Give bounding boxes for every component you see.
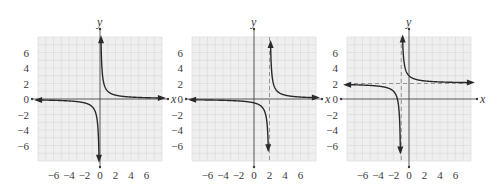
y-axis-end-dot xyxy=(408,166,410,168)
y-tick-label: 6 xyxy=(178,47,184,59)
x-tick-label: 2 xyxy=(422,169,428,181)
y-tick-label: −6 xyxy=(17,140,29,152)
y-tick-label: 6 xyxy=(333,47,339,59)
x-axis-label: x xyxy=(324,92,331,106)
graph-panel-2: xy−6−4−202466420−2−4−6 xyxy=(171,15,331,181)
x-axis-end-dot xyxy=(340,98,342,100)
x-axis-end-dot xyxy=(321,98,323,100)
x-axis-end-dot xyxy=(476,98,478,100)
x-tick-label: 2 xyxy=(113,169,119,181)
y-tick-label: 2 xyxy=(333,78,339,90)
x-tick-label: −4 xyxy=(372,169,384,181)
y-tick-label: −2 xyxy=(17,109,29,121)
x-tick-label: 6 xyxy=(453,169,459,181)
y-tick-label: −4 xyxy=(326,124,338,136)
y-tick-label: −6 xyxy=(326,140,338,152)
y-tick-label: 4 xyxy=(333,62,339,74)
x-tick-label: 4 xyxy=(282,169,288,181)
x-tick-label: −6 xyxy=(48,169,60,181)
x-tick-label: 2 xyxy=(267,169,273,181)
x-axis-label: x xyxy=(170,92,177,106)
y-tick-label: −6 xyxy=(171,140,183,152)
x-tick-label: −4 xyxy=(217,169,229,181)
x-axis-label: x xyxy=(479,92,486,106)
y-tick-label: 2 xyxy=(24,78,30,90)
y-tick-label: −2 xyxy=(326,109,338,121)
x-tick-label: 6 xyxy=(298,169,304,181)
x-axis-end-dot xyxy=(167,98,169,100)
x-tick-label: −6 xyxy=(202,169,214,181)
y-tick-label: 0 xyxy=(178,93,184,105)
y-tick-label: 2 xyxy=(178,78,184,90)
x-tick-label: 0 xyxy=(251,169,257,181)
y-axis-label: y xyxy=(96,15,103,29)
x-tick-label: −2 xyxy=(79,169,91,181)
y-axis-end-dot xyxy=(253,166,255,168)
y-axis-label: y xyxy=(250,15,257,29)
x-tick-label: −6 xyxy=(357,169,369,181)
y-tick-label: −4 xyxy=(171,124,183,136)
graphs-figure: xy−6−4−202466420−2−4−6xy−6−4−202466420−2… xyxy=(0,0,503,192)
x-tick-label: −2 xyxy=(233,169,245,181)
y-tick-label: 0 xyxy=(333,93,339,105)
x-axis-end-dot xyxy=(31,98,33,100)
x-tick-label: 0 xyxy=(406,169,412,181)
y-axis-end-dot xyxy=(99,166,101,168)
y-axis-label: y xyxy=(405,15,412,29)
graph-panel-3: xy−6−4−202466420−2−4−6 xyxy=(326,15,486,181)
x-axis-end-dot xyxy=(185,98,187,100)
y-tick-label: 0 xyxy=(24,93,30,105)
x-tick-label: 0 xyxy=(97,169,103,181)
y-tick-label: −2 xyxy=(171,109,183,121)
x-tick-label: −2 xyxy=(388,169,400,181)
y-tick-label: −4 xyxy=(17,124,29,136)
x-tick-label: 4 xyxy=(128,169,134,181)
y-tick-label: 6 xyxy=(24,47,30,59)
y-tick-label: 4 xyxy=(24,62,30,74)
x-tick-label: 4 xyxy=(437,169,443,181)
x-tick-label: 6 xyxy=(144,169,150,181)
graph-panel-1: xy−6−4−202466420−2−4−6 xyxy=(17,15,177,181)
x-tick-label: −4 xyxy=(63,169,75,181)
y-tick-label: 4 xyxy=(178,62,184,74)
